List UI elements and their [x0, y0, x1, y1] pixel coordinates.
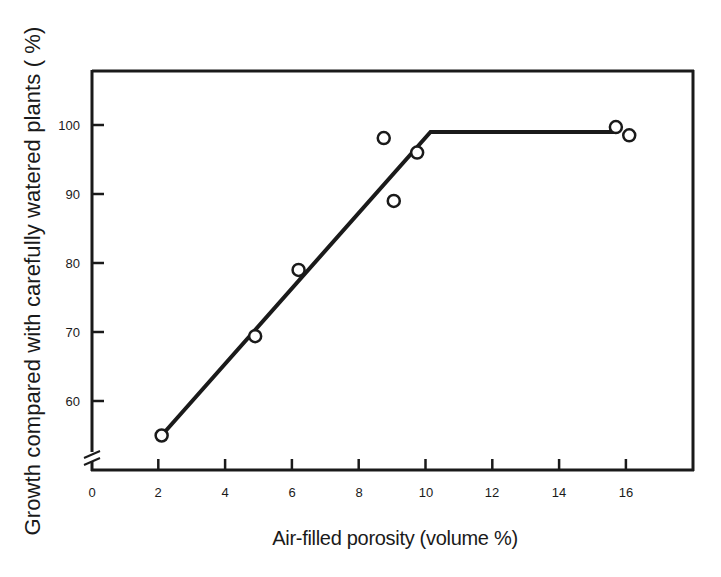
data-point-marker [293, 264, 305, 276]
y-tick-label: 80 [30, 256, 80, 271]
y-tick-label: 100 [30, 118, 80, 133]
y-tick-label: 60 [30, 394, 80, 409]
x-tick-label: 0 [88, 485, 95, 500]
x-tick-label: 8 [355, 485, 362, 500]
data-point-marker [156, 430, 168, 442]
x-tick-label: 2 [154, 485, 161, 500]
data-point-marker [623, 129, 635, 141]
data-point-marker [388, 195, 400, 207]
x-tick-label: 4 [221, 485, 228, 500]
x-tick-label: 10 [419, 485, 433, 500]
data-point-marker [610, 121, 622, 133]
data-point-marker [411, 147, 423, 159]
x-tick-label: 16 [619, 485, 633, 500]
y-axis-title: Growth compared with carefully watered p… [20, 27, 46, 536]
axis-ticks [92, 125, 626, 470]
y-tick-label: 70 [30, 325, 80, 340]
x-axis-title: Air-filled porosity (volume %) [272, 527, 518, 550]
fitted-line [162, 132, 618, 436]
data-point-marker [378, 132, 390, 144]
data-series [156, 121, 636, 441]
x-tick-label: 12 [485, 485, 499, 500]
y-tick-label: 90 [30, 187, 80, 202]
x-tick-label: 6 [288, 485, 295, 500]
data-point-marker [249, 330, 261, 342]
x-tick-label: 14 [552, 485, 566, 500]
